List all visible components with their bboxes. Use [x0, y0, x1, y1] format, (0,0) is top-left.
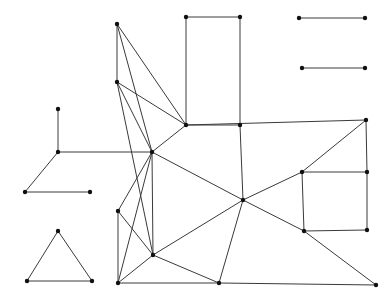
- graph-edge: [58, 231, 92, 281]
- graph-svg: [0, 0, 392, 303]
- graph-node: [90, 279, 94, 283]
- graph-edge: [243, 200, 304, 231]
- graph-node: [365, 170, 369, 174]
- graph-edge: [243, 172, 302, 200]
- graph-node: [365, 228, 369, 232]
- graph-node: [88, 190, 92, 194]
- graph-node: [56, 107, 60, 111]
- graph-diagram-canvas: [0, 0, 392, 303]
- graph-node: [238, 15, 242, 19]
- graph-edge: [304, 230, 367, 231]
- graph-node: [184, 123, 188, 127]
- graph-edge: [186, 120, 366, 125]
- graph-node: [217, 281, 221, 285]
- edge-layer: [25, 17, 376, 285]
- graph-edge: [117, 24, 186, 125]
- graph-edge: [25, 152, 58, 192]
- graph-edge: [219, 283, 376, 285]
- graph-node: [363, 66, 367, 70]
- graph-edge: [366, 120, 367, 172]
- graph-edge: [304, 231, 376, 285]
- graph-node: [25, 279, 29, 283]
- graph-edge: [27, 231, 58, 281]
- graph-edge: [117, 24, 152, 152]
- graph-node: [302, 229, 306, 233]
- graph-edge: [302, 172, 304, 231]
- graph-node: [116, 209, 120, 213]
- graph-node: [56, 229, 60, 233]
- graph-edge: [118, 152, 152, 211]
- graph-node: [56, 150, 60, 154]
- graph-node: [300, 66, 304, 70]
- graph-node: [297, 16, 301, 20]
- graph-edge: [152, 152, 243, 200]
- graph-node: [115, 22, 119, 26]
- graph-node: [184, 15, 188, 19]
- graph-edge: [152, 125, 186, 152]
- graph-node: [116, 281, 120, 285]
- graph-node: [151, 253, 155, 257]
- graph-node: [364, 118, 368, 122]
- graph-edge: [152, 152, 153, 255]
- graph-edge: [118, 211, 153, 255]
- graph-edge: [118, 255, 153, 283]
- graph-node: [238, 123, 242, 127]
- graph-edge: [153, 255, 219, 283]
- graph-edge: [240, 125, 243, 200]
- graph-edge: [302, 120, 366, 172]
- graph-node: [23, 190, 27, 194]
- graph-node: [374, 283, 378, 287]
- graph-node: [241, 198, 245, 202]
- graph-node: [150, 150, 154, 154]
- graph-node: [300, 170, 304, 174]
- graph-node: [363, 16, 367, 20]
- graph-node: [115, 80, 119, 84]
